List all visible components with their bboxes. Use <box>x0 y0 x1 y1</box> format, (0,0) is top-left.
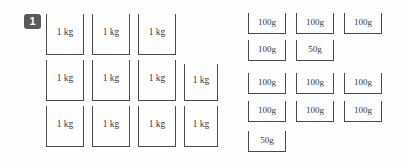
kilogram-weight-label: 1 kg <box>149 28 166 38</box>
kilogram-weight-label: 1 kg <box>57 28 74 38</box>
gram-weight-label: 100g <box>258 78 276 87</box>
kilogram-weight-label: 1 kg <box>193 120 210 130</box>
gram-weight[interactable]: 50g <box>296 40 334 61</box>
gram-weight[interactable]: 100g <box>344 73 382 94</box>
gram-weight[interactable]: 100g <box>248 13 286 34</box>
gram-weight[interactable]: 100g <box>344 101 382 122</box>
kilogram-weight[interactable]: 1 kg <box>138 60 176 101</box>
kilogram-weight-label: 1 kg <box>193 76 210 86</box>
kilogram-weight[interactable]: 1 kg <box>138 106 176 147</box>
gram-weight[interactable]: 100g <box>344 13 382 34</box>
kilogram-weight-label: 1 kg <box>149 120 166 130</box>
gram-weight[interactable]: 100g <box>296 13 334 34</box>
gram-weight[interactable]: 100g <box>248 40 286 61</box>
gram-weight-label: 100g <box>354 106 372 115</box>
kilogram-weight[interactable]: 1 kg <box>92 106 130 147</box>
gram-weight-label: 100g <box>354 78 372 87</box>
gram-weight-label: 100g <box>306 78 324 87</box>
kilogram-weight[interactable]: 1 kg <box>184 64 218 101</box>
gram-weight-label: 100g <box>258 106 276 115</box>
kilogram-weight[interactable]: 1 kg <box>46 60 84 101</box>
gram-weight-label: 100g <box>306 18 324 27</box>
gram-weight[interactable]: 100g <box>248 73 286 94</box>
gram-weight[interactable]: 50g <box>248 131 286 152</box>
kilogram-weight-label: 1 kg <box>103 74 120 84</box>
kilogram-weight[interactable]: 1 kg <box>92 60 130 101</box>
gram-weight-label: 50g <box>308 45 322 54</box>
kilogram-weight[interactable]: 1 kg <box>46 14 84 55</box>
kilogram-weight[interactable]: 1 kg <box>46 106 84 147</box>
gram-weight[interactable]: 100g <box>296 73 334 94</box>
gram-weight-label: 100g <box>258 18 276 27</box>
gram-weight-label: 50g <box>260 136 274 145</box>
kilogram-weight-label: 1 kg <box>149 74 166 84</box>
kilogram-weight-label: 1 kg <box>103 28 120 38</box>
worksheet-canvas: 1 1 kg1 kg1 kg1 kg1 kg1 kg1 kg1 kg1 kg1 … <box>0 0 402 168</box>
kilogram-weight[interactable]: 1 kg <box>184 106 218 147</box>
gram-weight-label: 100g <box>258 45 276 54</box>
kilogram-weight[interactable]: 1 kg <box>92 14 130 55</box>
gram-weight-label: 100g <box>306 106 324 115</box>
gram-weight-label: 100g <box>354 18 372 27</box>
question-number-badge: 1 <box>24 14 41 29</box>
gram-weight[interactable]: 100g <box>248 101 286 122</box>
kilogram-weight-label: 1 kg <box>103 120 120 130</box>
kilogram-weight[interactable]: 1 kg <box>138 14 176 55</box>
kilogram-weight-label: 1 kg <box>57 120 74 130</box>
gram-weight[interactable]: 100g <box>296 101 334 122</box>
kilogram-weight-label: 1 kg <box>57 74 74 84</box>
